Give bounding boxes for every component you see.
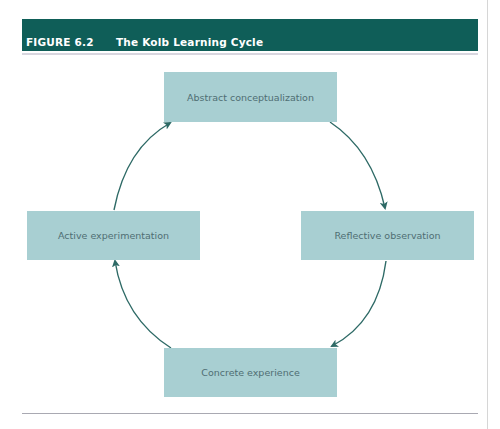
page-edge-rule	[487, 0, 488, 429]
node-abstract-conceptualization: Abstract conceptualization	[164, 72, 337, 122]
node-reflective-observation: Reflective observation	[301, 211, 474, 260]
arrow-abstract-to-reflective	[330, 122, 385, 208]
node-active-experimentation: Active experimentation	[27, 211, 200, 260]
arrow-concrete-to-active	[115, 261, 171, 348]
arrow-active-to-abstract	[114, 123, 170, 210]
node-label: Active experimentation	[58, 230, 169, 241]
node-label: Reflective observation	[334, 230, 440, 241]
node-label: Concrete experience	[201, 367, 299, 378]
arrow-reflective-to-concrete	[332, 261, 386, 346]
bottom-rule	[22, 413, 478, 414]
node-label: Abstract conceptualization	[187, 92, 314, 103]
node-concrete-experience: Concrete experience	[164, 348, 337, 397]
